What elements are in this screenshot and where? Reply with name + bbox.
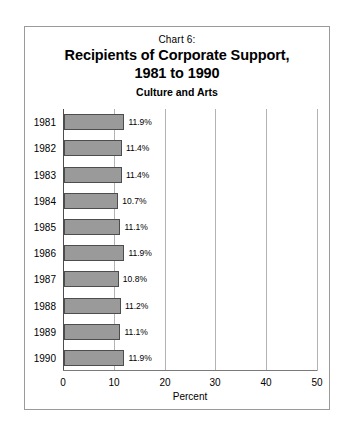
bar-row: 199011.9%: [63, 350, 317, 366]
x-axis-label: Percent: [173, 391, 207, 402]
bar-row: 198211.4%: [63, 140, 317, 156]
bar: [64, 167, 122, 183]
category-label: 1990: [34, 352, 56, 363]
plot-area: 198111.9%198211.4%198311.4%198410.7%1985…: [63, 109, 317, 371]
bar-value-label: 10.7%: [122, 196, 146, 206]
category-label: 1987: [34, 274, 56, 285]
x-tick-label: 40: [260, 377, 271, 388]
bar-value-label: 11.4%: [126, 170, 149, 180]
category-label: 1982: [34, 143, 56, 154]
chart-subtitle: Culture and Arts: [25, 84, 329, 100]
category-label: 1984: [34, 195, 56, 206]
bar: [64, 114, 124, 130]
bar-value-label: 11.9%: [128, 117, 151, 127]
bar-row: 198311.4%: [63, 167, 317, 183]
bar-value-label: 11.9%: [128, 248, 151, 258]
bar-value-label: 11.4%: [126, 143, 149, 153]
x-tick-label: 0: [60, 377, 66, 388]
bar-value-label: 11.2%: [125, 301, 148, 311]
category-label: 1983: [34, 169, 56, 180]
bar-row: 198511.1%: [63, 219, 317, 235]
bar: [64, 140, 122, 156]
x-tick-label: 30: [209, 377, 220, 388]
chart-title-line-1: Recipients of Corporate Support,: [25, 46, 329, 64]
bar: [64, 350, 124, 366]
category-label: 1985: [34, 221, 56, 232]
chart-figure: Chart 6: Recipients of Corporate Support…: [24, 26, 330, 410]
bar-row: 198911.1%: [63, 324, 317, 340]
x-tick-label: 10: [108, 377, 119, 388]
bar-value-label: 11.1%: [124, 327, 147, 337]
bar-row: 198611.9%: [63, 245, 317, 261]
bar-value-label: 10.8%: [123, 274, 147, 284]
bar-row: 198111.9%: [63, 114, 317, 130]
bar: [64, 298, 121, 314]
bar: [64, 271, 119, 287]
x-tick-label: 20: [159, 377, 170, 388]
bar: [64, 193, 118, 209]
bar-value-label: 11.1%: [124, 222, 147, 232]
chart-title-block: Chart 6: Recipients of Corporate Support…: [25, 27, 329, 100]
x-tick-label: 50: [311, 377, 322, 388]
gridline-50: [317, 109, 318, 371]
bar: [64, 219, 120, 235]
category-label: 1986: [34, 248, 56, 259]
bar-value-label: 11.9%: [128, 353, 151, 363]
chart-number-label: Chart 6:: [25, 33, 329, 46]
bar: [64, 245, 124, 261]
category-label: 1989: [34, 326, 56, 337]
category-label: 1981: [34, 117, 56, 128]
bar-row: 198710.8%: [63, 271, 317, 287]
category-label: 1988: [34, 300, 56, 311]
bar-row: 198410.7%: [63, 193, 317, 209]
chart-title-line-2: 1981 to 1990: [25, 64, 329, 82]
bar-row: 198811.2%: [63, 298, 317, 314]
x-axis-line: [63, 370, 317, 371]
bar: [64, 324, 120, 340]
